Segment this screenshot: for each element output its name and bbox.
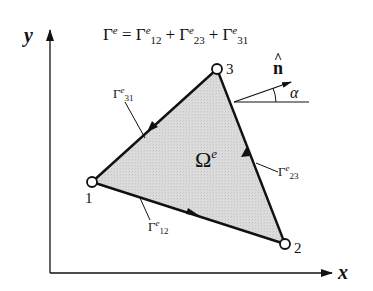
y-axis-label: y xyxy=(22,24,33,47)
boundary-equation: Γe = Γe12+Γe23+Γe31 xyxy=(103,24,248,46)
normal-vector xyxy=(234,82,291,102)
edge-23-label: Γe23 xyxy=(278,163,299,181)
node-3-label: 3 xyxy=(226,61,234,77)
normal-hat: ^ xyxy=(274,51,282,66)
x-axis-label: x xyxy=(337,261,348,283)
node-2 xyxy=(280,239,290,249)
edge-31-label: Γe31 xyxy=(113,85,134,103)
edge-23-leader xyxy=(256,163,278,172)
edge-31-leader xyxy=(125,102,145,138)
edge-12-label: Γe12 xyxy=(148,218,169,236)
outward-normal: α n ^ xyxy=(234,51,309,102)
node-3 xyxy=(212,64,222,74)
angle-arc xyxy=(273,88,276,102)
finite-element-diagram: y x Γe = Γe12+Γe23+Γe31 Ωe 1 2 3 Γe31 xyxy=(0,0,373,291)
node-1-label: 1 xyxy=(85,190,93,206)
node-2-label: 2 xyxy=(294,240,302,256)
angle-label: α xyxy=(290,84,299,101)
node-1 xyxy=(87,177,97,187)
